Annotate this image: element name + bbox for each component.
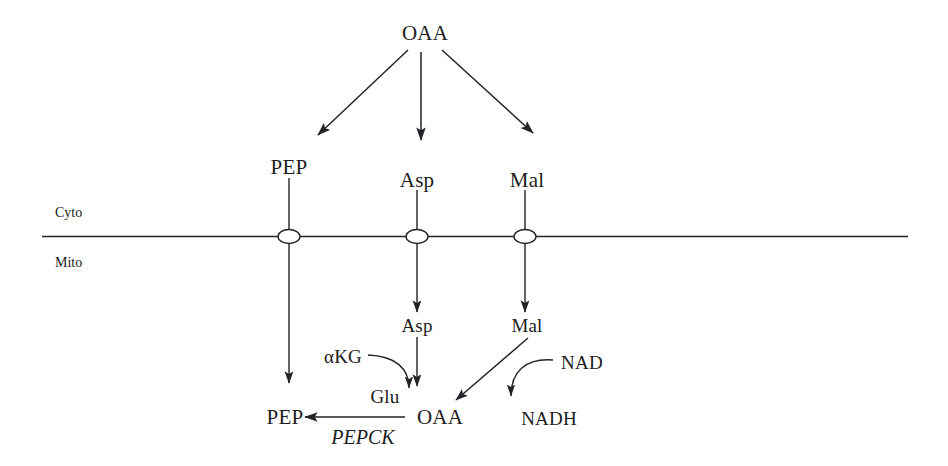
node-label-akg: αKG — [324, 347, 362, 366]
arrow-akg-to-glu — [368, 355, 409, 388]
pathway-diagram: OAA PEP Asp Mal Cyto Mito Asp Mal αKG Gl… — [0, 0, 948, 466]
enzyme-label-pepck: PEPCK — [331, 427, 394, 447]
mal-transporter-oval — [514, 230, 536, 244]
node-label-glu: Glu — [370, 387, 399, 406]
arrow-nad-to-nadh — [511, 360, 553, 396]
arrow-oaa-to-mal — [442, 50, 533, 133]
node-label-pep-cyto: PEP — [271, 157, 308, 178]
node-label-oaa-mito: OAA — [417, 407, 463, 428]
diagram-canvas — [0, 0, 948, 466]
node-label-nadh: NADH — [521, 409, 577, 428]
node-label-nad: NAD — [561, 353, 603, 372]
node-label-pep-mito: PEP — [267, 407, 304, 428]
compartment-label-mito: Mito — [55, 256, 82, 270]
node-label-mal-mito: Mal — [511, 316, 542, 335]
node-label-asp-cyto: Asp — [400, 170, 434, 191]
asp-transporter-oval — [406, 230, 428, 244]
arrow-mal-to-oaa-mito — [456, 338, 528, 400]
compartment-label-cyto: Cyto — [55, 206, 82, 220]
node-label-oaa-top: OAA — [402, 23, 448, 44]
pep-transporter-oval — [278, 230, 300, 244]
arrow-oaa-to-pep — [318, 50, 408, 135]
node-label-asp-mito: Asp — [401, 316, 432, 335]
node-label-mal-cyto: Mal — [510, 170, 544, 191]
